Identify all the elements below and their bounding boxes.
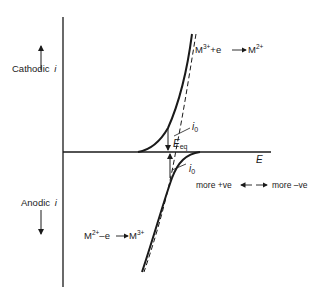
oxidation-reaction-label: M2+–e	[84, 229, 110, 241]
net-current-cathodic-branch	[138, 34, 192, 152]
cathodic-label: Cathodic i	[12, 63, 57, 74]
anodic-label: Anodic i	[21, 197, 58, 208]
cathodic-partial-current-curve	[144, 34, 196, 272]
more-positive-label: more +ve	[196, 180, 232, 190]
i0-upper-leader	[174, 128, 190, 136]
exchange-current-lower-label: i0	[189, 163, 195, 175]
diagram-canvas: Cathodic i Anodic i Eeq i0 i0 E more +ve…	[0, 0, 333, 300]
potential-axis-label: E	[256, 154, 263, 165]
reduction-reaction-label: M3++e	[195, 43, 221, 55]
oxidation-product-label: M3+	[129, 229, 145, 241]
reduction-product-label: M2+	[248, 43, 264, 55]
equilibrium-potential-label: Eeq	[173, 138, 188, 151]
exchange-current-upper-label: i0	[192, 121, 198, 133]
more-negative-label: more –ve	[272, 180, 308, 190]
